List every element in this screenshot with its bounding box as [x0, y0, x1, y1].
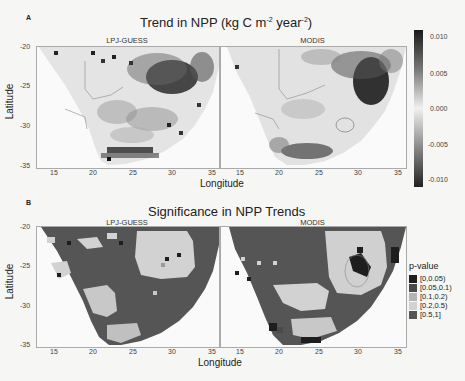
xtick-b-r-20: 20: [275, 348, 283, 355]
xtick-a-l-30: 30: [168, 169, 176, 176]
xtick-b-l-25: 25: [129, 348, 137, 355]
legend-title: p-value: [409, 261, 452, 271]
xtick-a-r-15: 15: [236, 169, 244, 176]
legend-item: [0.5,1]: [409, 310, 452, 319]
ytick-b-35: -35: [20, 341, 30, 348]
colorbar-label-1: 0.005: [430, 70, 448, 77]
xtick-b-r-15: 15: [236, 348, 244, 355]
ytick-a-25: -25: [20, 82, 30, 89]
legend-label: [0.2,0.5): [420, 301, 448, 310]
xtick-a-l-25: 25: [129, 169, 137, 176]
panel-b-ylabel: Latitude: [4, 264, 15, 300]
legend-item: [0.2,0.5): [409, 301, 452, 310]
legend-label: [0.5,1]: [420, 310, 441, 319]
legend-label: [0.1,0.2): [420, 292, 448, 301]
xtick-a-r-35: 35: [394, 169, 402, 176]
colorbar-label-4: -0.010: [428, 176, 448, 183]
colorbar-label-0: 0.010: [430, 33, 448, 40]
panel-a-facet-right: MODIS: [220, 36, 405, 45]
xtick-b-r-35: 35: [394, 348, 402, 355]
legend-item: [0.05,0.1): [409, 283, 452, 292]
xtick-a-l-35: 35: [208, 169, 216, 176]
xtick-a-l-15: 15: [50, 169, 58, 176]
ytick-b-30: -30: [20, 302, 30, 309]
map-a-lpjguess: [36, 46, 220, 169]
xtick-b-l-20: 20: [89, 348, 97, 355]
ytick-b-20: -20: [20, 223, 30, 230]
panel-b-letter: B: [26, 199, 31, 206]
legend-swatch: [409, 293, 417, 301]
xtick-b-l-15: 15: [50, 348, 58, 355]
legend-swatch: [409, 284, 417, 292]
legend-swatch: [409, 302, 417, 310]
panel-a-ylabel: Latitude: [4, 84, 15, 120]
map-a-modis: [220, 46, 407, 169]
ytick-a-20: -20: [20, 43, 30, 50]
xtick-b-l-35: 35: [208, 348, 216, 355]
xtick-b-r-25: 25: [315, 348, 323, 355]
panel-b-xlabel: Longitude: [198, 357, 242, 368]
legend-label: [0,0.05): [420, 274, 445, 283]
xtick-a-r-20: 20: [275, 169, 283, 176]
map-b-lpjguess: [36, 226, 220, 348]
ytick-a-30: -30: [20, 122, 30, 129]
xtick-b-r-30: 30: [354, 348, 362, 355]
xtick-a-l-20: 20: [89, 169, 97, 176]
map-b-modis: [220, 226, 407, 348]
panel-b-title: Significance in NPP Trends: [148, 204, 305, 219]
ytick-b-25: -25: [20, 262, 30, 269]
colorbar-label-3: -0.005: [428, 141, 448, 148]
legend-item: [0,0.05): [409, 274, 452, 283]
colorbar: [414, 30, 423, 187]
legend-swatch: [409, 275, 417, 283]
panel-a-letter: A: [26, 14, 31, 21]
colorbar-label-2: 0.000: [430, 105, 448, 112]
legend-label: [0.05,0.1): [420, 283, 452, 292]
xtick-a-r-25: 25: [315, 169, 323, 176]
xtick-a-r-30: 30: [354, 169, 362, 176]
legend-swatch: [409, 311, 417, 319]
panel-a-title: Trend in NPP (kg C m-2 year-2): [140, 15, 312, 30]
panel-a-facet-left: LPJ-GUESS: [36, 36, 218, 45]
ytick-a-35: -35: [20, 162, 30, 169]
legend-item: [0.1,0.2): [409, 292, 452, 301]
panel-a-xlabel: Longitude: [200, 178, 244, 189]
pvalue-legend: p-value [0,0.05) [0.05,0.1) [0.1,0.2) [0…: [409, 261, 452, 319]
xtick-b-l-30: 30: [168, 348, 176, 355]
